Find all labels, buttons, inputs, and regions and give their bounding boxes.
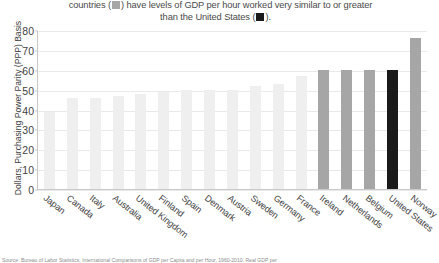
caption-line-2: than the United States ().: [0, 12, 431, 24]
bar-slot: [221, 31, 244, 189]
chart-caption: countries () have levels of GDP per hour…: [0, 0, 431, 23]
bar-slot: [61, 31, 84, 189]
bar-australia[interactable]: [113, 96, 124, 189]
x-label-slot: Japan: [37, 191, 60, 261]
plot-area: 01020304050607080: [37, 31, 427, 190]
bar-spain[interactable]: [181, 90, 192, 189]
x-label-slot: Norway: [404, 191, 427, 261]
x-label-slot: Germany: [266, 191, 289, 261]
bar-slot: [244, 31, 267, 189]
bar-germany[interactable]: [273, 84, 284, 189]
x-axis-labels: JapanCanadaItalyAustraliaUnited KingdomF…: [37, 191, 427, 261]
bar-slot: [198, 31, 221, 189]
x-label-slot: Sweden: [243, 191, 266, 261]
bar-sweden[interactable]: [250, 86, 261, 189]
x-label-slot: Italy: [83, 191, 106, 261]
bar-slot: [130, 31, 153, 189]
bar-slot: [267, 31, 290, 189]
bar-series: [38, 31, 427, 189]
bar-united-states[interactable]: [387, 70, 398, 189]
bar-belgium[interactable]: [364, 70, 375, 189]
x-label-slot: Belgium: [358, 191, 381, 261]
bar-slot: [381, 31, 404, 189]
x-label-slot: Denmark: [198, 191, 221, 261]
y-tick-label: 30: [22, 124, 34, 136]
y-tick-label: 20: [22, 144, 34, 156]
x-axis-label-italy: Italy: [88, 193, 107, 211]
bar-slot: [175, 31, 198, 189]
x-label-slot: United States: [381, 191, 404, 261]
x-label-slot: Finland: [152, 191, 175, 261]
source-note: Source: Bureau of Labor Statistics, Inte…: [2, 257, 431, 263]
caption-line1-after-text: ) have levels of GDP per hour worked ver…: [121, 0, 372, 10]
caption-line2-before-text: than the United States (: [160, 12, 255, 22]
bar-slot: [404, 31, 427, 189]
bar-slot: [358, 31, 381, 189]
bar-chart: Dollars, Purchasing Power Parity (PPP) B…: [0, 25, 431, 260]
bar-slot: [107, 31, 130, 189]
bar-slot: [335, 31, 358, 189]
x-axis-label-norway: Norway: [409, 193, 439, 219]
y-tick-label: 80: [22, 25, 34, 37]
bar-france[interactable]: [296, 76, 307, 189]
y-tick-label: 60: [22, 65, 34, 77]
bar-italy[interactable]: [90, 98, 101, 189]
x-label-slot: Spain: [175, 191, 198, 261]
bar-slot: [38, 31, 61, 189]
bar-netherlands[interactable]: [341, 70, 352, 189]
x-label-slot: Austria: [221, 191, 244, 261]
caption-line-1: countries () have levels of GDP per hour…: [0, 0, 431, 12]
bar-slot: [290, 31, 313, 189]
bar-denmark[interactable]: [204, 90, 215, 189]
x-label-slot: Canada: [60, 191, 83, 261]
bar-slot: [152, 31, 175, 189]
y-tick-label: 40: [22, 105, 34, 117]
bar-slot: [313, 31, 336, 189]
caption-line1-before-text: countries (: [69, 0, 111, 10]
bar-norway[interactable]: [410, 38, 421, 189]
bar-finland[interactable]: [158, 92, 169, 189]
black-swatch-icon: [256, 13, 264, 21]
x-label-slot: United Kingdom: [129, 191, 152, 261]
bar-japan[interactable]: [44, 112, 55, 190]
x-label-slot: Netherlands: [335, 191, 358, 261]
gray-swatch-icon: [112, 1, 120, 9]
y-tick-label: 50: [22, 85, 34, 97]
bar-austria[interactable]: [227, 90, 238, 189]
caption-line2-after-text: ).: [265, 12, 270, 22]
y-tick-label: 0: [28, 184, 34, 196]
bar-slot: [84, 31, 107, 189]
x-label-slot: Ireland: [312, 191, 335, 261]
x-label-slot: France: [289, 191, 312, 261]
bar-united-kingdom[interactable]: [135, 94, 146, 189]
y-tick-label: 70: [22, 45, 34, 57]
bar-canada[interactable]: [67, 98, 78, 189]
bar-ireland[interactable]: [318, 70, 329, 189]
x-label-slot: Australia: [106, 191, 129, 261]
y-tick-label: 10: [22, 164, 34, 176]
